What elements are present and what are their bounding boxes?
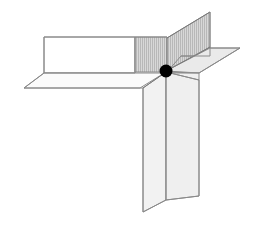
intersection-point — [160, 65, 173, 78]
intersecting-planes-diagram — [0, 0, 255, 228]
lower-back-vertical-plane — [166, 72, 199, 200]
lower-front-vertical-plane — [143, 72, 166, 212]
diagram-background — [0, 0, 255, 228]
marker-group — [160, 65, 173, 78]
figure-canvas — [0, 0, 255, 228]
upper-left-white-panel — [44, 37, 135, 73]
